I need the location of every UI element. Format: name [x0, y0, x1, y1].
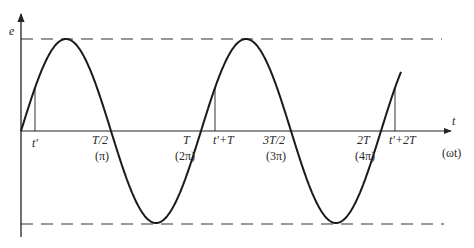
- tick-label-t-prime-plus-T: t′+T: [213, 133, 235, 147]
- sinusoid-diagram: e t (ωt) t′ T/2 (π) T (2π) t′+T 3T/2 (3π…: [0, 0, 474, 248]
- tick-sub-three-half-T: (3π): [266, 149, 286, 163]
- tick-label-two-T: 2T: [357, 133, 371, 147]
- tick-sub-half-T: (π): [95, 149, 109, 163]
- tick-label-t-prime-plus-2T: t′+2T: [389, 133, 417, 147]
- tick-sub-T: (2π): [175, 149, 195, 163]
- y-axis-label: e: [9, 24, 15, 38]
- x-axis-alt-label: (ωt): [442, 146, 461, 160]
- tick-label-half-T: T/2: [92, 133, 108, 147]
- tick-sub-two-T: (4π): [355, 149, 375, 163]
- tick-label-three-half-T: 3T/2: [262, 133, 285, 147]
- tick-label-t-prime: t′: [32, 136, 38, 150]
- x-axis-label: t: [452, 114, 456, 128]
- tick-label-T: T: [183, 133, 191, 147]
